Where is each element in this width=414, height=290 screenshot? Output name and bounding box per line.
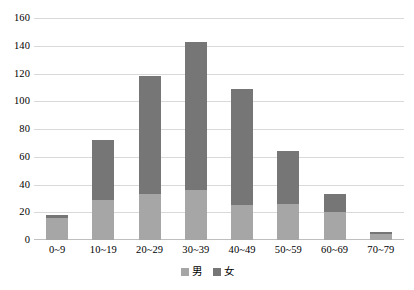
y-axis-tick-label: 140 — [0, 41, 30, 51]
bar-segment-male[interactable] — [92, 200, 114, 240]
legend-swatch-icon — [213, 268, 221, 276]
bar-segment-male[interactable] — [185, 190, 207, 240]
bar-segment-female[interactable] — [92, 140, 114, 200]
x-axis-tick-label: 70~79 — [358, 244, 404, 256]
legend-swatch-icon — [181, 268, 189, 276]
x-axis-tick-label: 50~59 — [265, 244, 311, 256]
x-axis-tick-label: 40~49 — [219, 244, 265, 256]
y-axis-labels: 160140120100806040200 — [0, 18, 30, 240]
y-axis-tick-label: 20 — [0, 207, 30, 217]
y-axis-tick-label: 60 — [0, 152, 30, 162]
bar-segment-female[interactable] — [277, 151, 299, 204]
bar-slot — [34, 18, 80, 240]
bar-stack[interactable] — [277, 151, 299, 240]
bar-slot — [219, 18, 265, 240]
y-axis-tick-label: 80 — [0, 124, 30, 134]
bar-slot — [127, 18, 173, 240]
bar-stack[interactable] — [370, 232, 392, 240]
bar-slot — [358, 18, 404, 240]
stacked-bar-chart: 160140120100806040200 0~910~1920~2930~39… — [0, 0, 414, 290]
bar-slot — [173, 18, 219, 240]
bar-slot — [265, 18, 311, 240]
y-axis-tick-label: 100 — [0, 96, 30, 106]
chart-legend: 男女 — [0, 266, 414, 277]
bar-segment-female[interactable] — [185, 42, 207, 190]
x-axis-tick-label: 10~19 — [80, 244, 126, 256]
x-axis-tick-label: 20~29 — [127, 244, 173, 256]
bar-stack[interactable] — [46, 215, 68, 240]
x-axis-labels: 0~910~1920~2930~3940~4950~5960~6970~79 — [34, 244, 404, 256]
plot-area — [34, 18, 404, 240]
x-axis-tick-label: 0~9 — [34, 244, 80, 256]
y-axis-tick-label: 0 — [0, 235, 30, 245]
bar-stack[interactable] — [139, 76, 161, 240]
legend-item[interactable]: 女 — [213, 266, 234, 277]
bar-slot — [80, 18, 126, 240]
bar-segment-male[interactable] — [324, 212, 346, 240]
bar-segment-female[interactable] — [139, 76, 161, 194]
bar-segment-male[interactable] — [370, 234, 392, 240]
bar-stack[interactable] — [324, 194, 346, 240]
bar-segment-male[interactable] — [231, 205, 253, 240]
y-axis-tick-label: 160 — [0, 13, 30, 23]
y-axis-tick-label: 40 — [0, 180, 30, 190]
bar-segment-male[interactable] — [277, 204, 299, 240]
bar-segment-male[interactable] — [139, 194, 161, 240]
legend-item[interactable]: 男 — [181, 266, 202, 277]
x-axis-tick-label: 30~39 — [173, 244, 219, 256]
bar-segment-male[interactable] — [46, 218, 68, 240]
bar-stack[interactable] — [92, 140, 114, 240]
bar-slot — [312, 18, 358, 240]
bar-stack[interactable] — [185, 42, 207, 240]
bar-segment-female[interactable] — [231, 89, 253, 206]
legend-label: 男 — [192, 266, 202, 277]
legend-label: 女 — [224, 266, 234, 277]
x-axis-tick-label: 60~69 — [312, 244, 358, 256]
bar-stack[interactable] — [231, 89, 253, 240]
y-axis-tick-label: 120 — [0, 69, 30, 79]
bar-group — [34, 18, 404, 240]
bar-segment-female[interactable] — [324, 194, 346, 212]
